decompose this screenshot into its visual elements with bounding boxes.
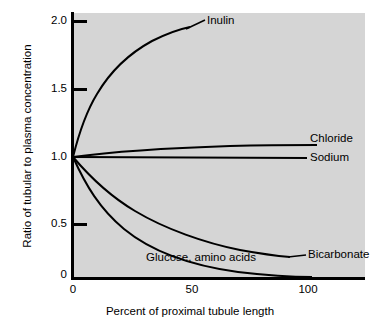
curve-layer — [0, 0, 380, 332]
series-curve-bicarbonate — [73, 157, 290, 257]
chart-figure: 2.0 1.5 1.0 0.5 0 0 50 100 Inulin Chlori… — [0, 0, 380, 332]
series-label-bicarbonate: Bicarbonate — [308, 249, 369, 261]
series-leader-bicarbonate — [288, 255, 306, 257]
x-axis-title: Percent of proximal tubule length — [0, 305, 380, 317]
series-curve-chloride — [73, 145, 317, 157]
y-axis-title: Ratio of tubular to plasma concentration — [21, 11, 33, 281]
series-curve-inulin — [73, 27, 190, 157]
series-label-chloride: Chloride — [310, 133, 353, 145]
series-curve-sodium — [73, 157, 307, 158]
series-leader-inulin — [186, 20, 205, 29]
series-label-glucose-amino-acids: Glucose, amino acids — [146, 252, 256, 264]
series-label-inulin: Inulin — [207, 15, 235, 27]
series-label-sodium: Sodium — [310, 152, 349, 164]
